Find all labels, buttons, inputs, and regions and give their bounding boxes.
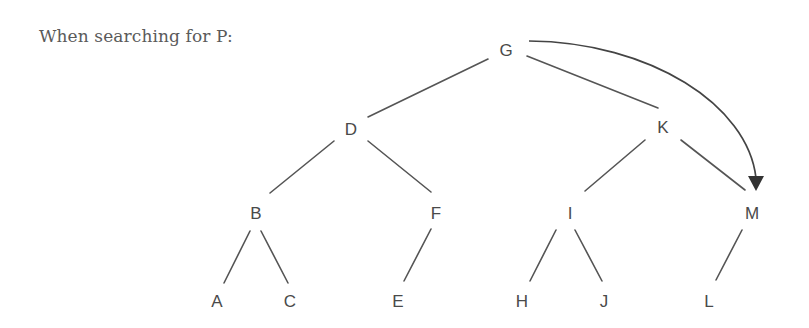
edge-m-l bbox=[716, 230, 742, 280]
edge-k-m bbox=[681, 140, 745, 190]
edge-g-k bbox=[527, 56, 658, 108]
edge-i-j bbox=[575, 230, 602, 281]
node-b: B bbox=[250, 204, 261, 223]
node-a: A bbox=[211, 292, 223, 311]
edge-d-f bbox=[368, 141, 431, 192]
node-g: G bbox=[499, 41, 512, 60]
node-k: K bbox=[657, 118, 669, 137]
edge-f-e bbox=[404, 229, 431, 281]
binary-search-tree-diagram: G D K B F I M A C E H J L bbox=[0, 0, 809, 328]
node-l: L bbox=[704, 292, 713, 311]
edge-b-a bbox=[224, 231, 250, 283]
arrowhead-icon bbox=[748, 176, 764, 191]
node-j: J bbox=[600, 292, 609, 311]
edge-b-c bbox=[261, 231, 288, 283]
edge-d-b bbox=[270, 141, 334, 193]
tree-edges bbox=[224, 56, 745, 283]
node-c: C bbox=[284, 292, 296, 311]
node-d: D bbox=[345, 120, 357, 139]
search-path-arrow bbox=[529, 41, 764, 191]
node-m: M bbox=[745, 204, 759, 223]
node-f: F bbox=[431, 204, 441, 223]
edge-k-i bbox=[585, 140, 645, 191]
search-arc bbox=[529, 41, 756, 178]
node-i: I bbox=[568, 204, 573, 223]
node-e: E bbox=[392, 292, 403, 311]
edge-g-d bbox=[368, 59, 488, 117]
edge-i-h bbox=[530, 230, 556, 281]
node-h: H bbox=[516, 292, 528, 311]
tree-nodes: G D K B F I M A C E H J L bbox=[211, 41, 759, 311]
